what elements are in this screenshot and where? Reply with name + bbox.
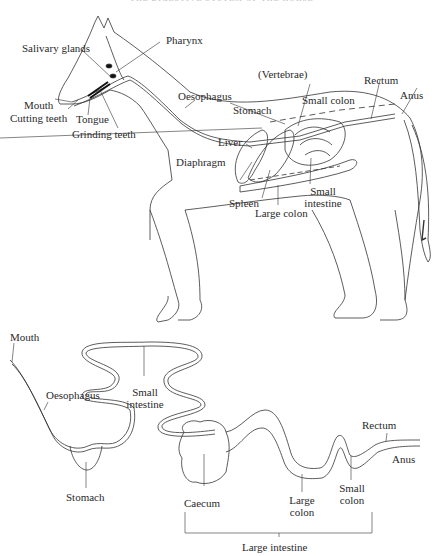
label-diaphragm: Diaphragm	[176, 156, 225, 168]
label-grinding-teeth: Grinding teeth	[72, 128, 136, 140]
label-vertebrae: (Vertebrae)	[258, 68, 307, 80]
label-anus: Anus	[400, 89, 423, 101]
label-cutting-teeth: Cutting teeth	[10, 112, 67, 124]
horse-outline	[58, 16, 430, 322]
label-schematic-oesophagus: Oesophagus	[46, 389, 100, 401]
label-small-intestine: Small intestine	[296, 185, 350, 209]
label-mouth: Mouth	[24, 99, 53, 111]
label-small-colon: Small colon	[302, 94, 355, 106]
abdominal-organs	[235, 119, 357, 192]
label-schematic-rectum: Rectum	[362, 419, 396, 431]
label-stomach: Stomach	[233, 104, 272, 116]
label-salivary-glands: Salivary glands	[22, 42, 90, 54]
label-schematic-small-colon: Small colon	[334, 482, 370, 506]
label-schematic-stomach: Stomach	[66, 491, 105, 503]
label-schematic-small-intestine: Small intestine	[122, 386, 168, 410]
label-schematic-mouth: Mouth	[10, 331, 39, 343]
label-rectum: Rectum	[364, 74, 398, 86]
label-pharynx: Pharynx	[166, 34, 203, 46]
label-schematic-large-colon: Large colon	[284, 494, 320, 518]
label-tongue: Tongue	[76, 113, 109, 125]
label-schematic-anus: Anus	[392, 453, 415, 465]
label-schematic-caecum: Caecum	[184, 497, 220, 509]
label-schematic-large-intestine: Large intestine	[242, 541, 307, 553]
label-oesophagus: Oesophagus	[178, 90, 232, 102]
label-liver: Liver	[218, 136, 242, 148]
